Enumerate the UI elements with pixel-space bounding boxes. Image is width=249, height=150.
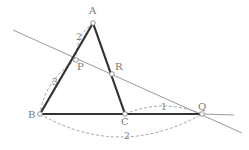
length-bq: 2 (124, 131, 130, 141)
point-a (91, 21, 96, 26)
segment-ab (40, 23, 93, 114)
length-cq: 1 (161, 102, 167, 112)
point-labels: A P R B C Q (28, 5, 206, 127)
length-pb: 3 (52, 77, 58, 87)
point-b (38, 112, 43, 117)
label-c: C (121, 116, 129, 127)
bc-extension-line (202, 114, 234, 115)
point-r (110, 72, 115, 77)
diagram-canvas: A P R B C Q 2 3 1 2 (0, 0, 249, 150)
label-r: R (115, 61, 123, 72)
label-a: A (88, 5, 97, 16)
label-q: Q (198, 101, 206, 112)
label-b: B (28, 109, 35, 120)
length-marks: 2 3 1 2 (52, 32, 167, 141)
length-ap: 2 (76, 32, 82, 42)
label-p: P (77, 61, 84, 72)
point-q (200, 112, 205, 117)
